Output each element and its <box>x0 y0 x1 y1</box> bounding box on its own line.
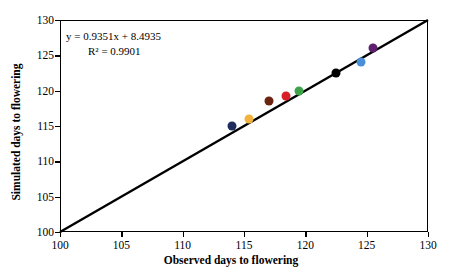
data-point-4 <box>281 91 290 100</box>
data-point-3 <box>264 97 273 106</box>
data-point-6 <box>332 69 341 78</box>
regression-equation-label: y = 0.9351x + 8.4935 <box>66 30 161 42</box>
data-point-2 <box>244 114 253 123</box>
x-axis-title: Observed days to flowering <box>0 254 462 266</box>
y-axis-title: Simulated days to flowering <box>10 32 22 232</box>
data-point-1 <box>227 122 236 131</box>
r-squared-label: R² = 0.9901 <box>88 45 141 57</box>
data-point-8 <box>368 44 377 53</box>
scatter-chart-figure: 100105110115120125130 100105110115120125… <box>0 0 462 279</box>
data-point-7 <box>356 58 365 67</box>
data-point-5 <box>295 86 304 95</box>
